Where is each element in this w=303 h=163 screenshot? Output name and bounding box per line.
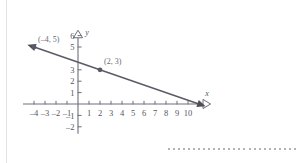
dot <box>228 148 230 150</box>
plotted-line <box>33 47 199 104</box>
x-tick-label: 2 <box>98 108 102 118</box>
x-tick-label: 5 <box>131 108 135 118</box>
dot <box>173 148 175 150</box>
y-tick-label: 6 <box>70 31 74 41</box>
x-tick-label: 1 <box>87 108 91 118</box>
dot <box>208 148 210 150</box>
dot <box>274 148 276 150</box>
x-tick-label: –3 <box>40 108 50 118</box>
dot <box>294 148 296 150</box>
x-tick-label: 8 <box>164 108 168 118</box>
x-tick-label: 7 <box>153 108 157 118</box>
x-tick-label: 9 <box>175 108 179 118</box>
left-margin-rule <box>6 0 7 163</box>
data-point <box>98 67 103 72</box>
data-point-label: (–4, 5) <box>38 35 60 44</box>
dot <box>218 148 220 150</box>
x-axis-label: x <box>204 89 209 98</box>
dot <box>233 148 235 150</box>
data-point-label: (2, 3) <box>104 57 122 66</box>
x-tick-label: 10 <box>184 108 193 118</box>
dot <box>183 148 185 150</box>
graph-canvas: xy–4–3–2–112345678910–2–112356(–4, 5)(2,… <box>0 0 303 163</box>
x-tick-label: 3 <box>109 108 113 118</box>
dot <box>188 148 190 150</box>
dot <box>168 148 170 150</box>
y-tick-label: 1 <box>70 88 74 98</box>
y-tick-label: –1 <box>65 111 75 121</box>
dot <box>238 148 240 150</box>
dot <box>243 148 245 150</box>
y-tick-label: 5 <box>70 42 74 52</box>
x-tick-label: –2 <box>51 108 61 118</box>
dot <box>198 148 200 150</box>
dot <box>203 148 205 150</box>
y-axis-arrow-icon <box>73 30 82 37</box>
dot <box>264 148 266 150</box>
dot <box>289 148 291 150</box>
x-tick-label: 4 <box>120 108 125 118</box>
y-axis-label: y <box>84 28 89 37</box>
dot <box>269 148 271 150</box>
dot <box>193 148 195 150</box>
x-tick-label: –4 <box>29 108 39 118</box>
x-axis-arrow-icon <box>203 99 211 108</box>
dot <box>178 148 180 150</box>
y-tick-label: –2 <box>65 122 75 132</box>
dot <box>223 148 225 150</box>
y-tick-label: 2 <box>70 76 74 86</box>
decorative-dot-row <box>168 147 296 151</box>
dot <box>213 148 215 150</box>
dot <box>249 148 251 150</box>
dot <box>259 148 261 150</box>
dot <box>279 148 281 150</box>
dot <box>284 148 286 150</box>
data-point <box>32 45 37 50</box>
coordinate-plane-figure: xy–4–3–2–112345678910–2–112356(–4, 5)(2,… <box>0 0 303 163</box>
x-tick-label: 6 <box>142 108 146 118</box>
y-tick-label: 3 <box>70 65 74 75</box>
dot <box>254 148 256 150</box>
